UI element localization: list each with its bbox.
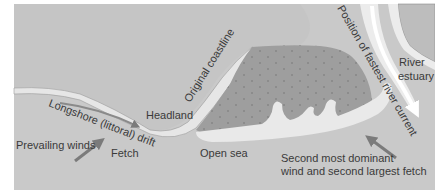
river-estuary-label-line2: estuary <box>398 70 435 82</box>
river-estuary-label-line1: River <box>399 56 425 68</box>
second-wind-label-line1: Second most dominant <box>281 152 394 164</box>
second-wind-label-line2: wind and second largest fetch <box>280 165 427 177</box>
prevailing-winds-label: Prevailing winds <box>16 139 96 151</box>
spit-formation-diagram: Longshore (littoral) drift Headland Orig… <box>0 0 435 194</box>
fetch-label: Fetch <box>111 147 139 159</box>
headland-label: Headland <box>146 109 193 121</box>
open-sea-label: Open sea <box>200 147 249 159</box>
